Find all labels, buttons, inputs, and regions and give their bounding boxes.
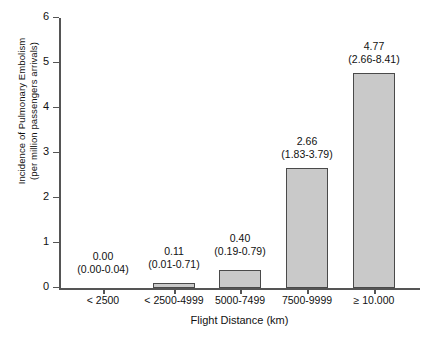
ci-2: (0.19-0.79) [192,245,288,258]
bar-2[interactable] [219,270,261,288]
plot-area: 0 1 2 3 4 5 6 0.00 [59,18,420,288]
y-tick-2: 2 [53,197,59,199]
y-tick-label-3: 3 [43,145,49,157]
x-axis-title: Flight Distance (km) [59,314,420,326]
y-tick-4: 4 [53,107,59,109]
y-tick-3: 3 [53,152,59,154]
value-2: 0.40 [192,232,288,245]
y-axis-line [59,18,61,288]
ci-3: (1.83-3.79) [259,148,355,161]
value-label-4: 4.77 (2.66-8.41) [326,40,422,65]
y-tick-5: 5 [53,62,59,64]
x-category-label-4: ≥ 10.000 [319,294,429,307]
y-tick-label-4: 4 [43,100,49,112]
y-tick-label-1: 1 [43,235,49,247]
y-tick-label-6: 6 [43,10,49,22]
value-4: 4.77 [326,40,422,53]
bar-3[interactable] [286,168,328,288]
y-tick-0: 0 [53,287,59,289]
ci-4: (2.66-8.41) [326,53,422,66]
value-3: 2.66 [259,135,355,148]
y-axis-title-line1: Incidence of Pulmonary Embolism [16,0,28,226]
bar-4[interactable] [353,73,395,288]
y-tick-6: 6 [53,17,59,19]
y-tick-1: 1 [53,242,59,244]
bar-chart: Incidence of Pulmonary Embolism (per mil… [0,0,436,338]
bar-1[interactable] [153,283,195,288]
y-tick-label-0: 0 [43,280,49,292]
y-tick-label-2: 2 [43,190,49,202]
y-axis-title: Incidence of Pulmonary Embolism (per mil… [16,0,46,226]
value-label-3: 2.66 (1.83-3.79) [259,135,355,160]
y-tick-label-5: 5 [43,55,49,67]
y-axis-title-line2: (per million passengers arrivals) [28,0,40,226]
ci-1: (0.01-0.71) [126,258,222,271]
value-label-2: 0.40 (0.19-0.79) [192,232,288,257]
